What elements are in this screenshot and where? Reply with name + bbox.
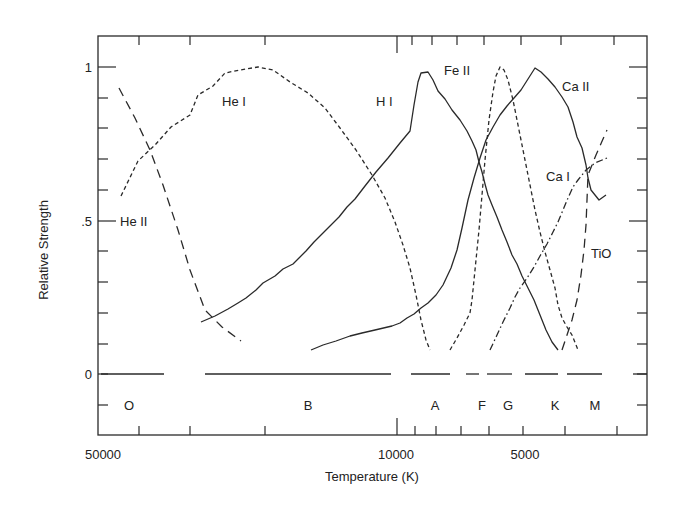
label-he-ii: He II bbox=[120, 214, 147, 229]
x-tick-50000: 50000 bbox=[85, 447, 121, 462]
plot-frame bbox=[98, 36, 647, 435]
class-g: G bbox=[503, 398, 513, 413]
x-axis-title: Temperature (K) bbox=[325, 469, 419, 484]
x-tick-5000: 5000 bbox=[511, 447, 540, 462]
spectral-line-strength-chart: He II He I H I Fe II Ca II Ca I TiO O B … bbox=[0, 0, 680, 506]
y-axis-ticks-right bbox=[629, 67, 647, 405]
class-f: F bbox=[478, 398, 486, 413]
y-tick-0: 0 bbox=[85, 367, 92, 382]
label-h-i: H I bbox=[376, 94, 393, 109]
x-tick-labels: 50000 10000 5000 bbox=[85, 447, 540, 462]
x-tick-10000: 10000 bbox=[378, 447, 414, 462]
class-o: O bbox=[124, 398, 134, 413]
x-axis-ticks-bottom bbox=[139, 418, 617, 435]
label-he-i: He I bbox=[222, 94, 246, 109]
series-h-i-line bbox=[201, 72, 558, 350]
x-axis-ticks-top bbox=[139, 36, 614, 53]
y-tick-05: .5 bbox=[81, 214, 92, 229]
label-ca-ii: Ca II bbox=[562, 79, 589, 94]
class-k: K bbox=[551, 398, 560, 413]
y-axis-ticks-left bbox=[98, 67, 116, 405]
class-b: B bbox=[304, 398, 313, 413]
series-ca-ii-line bbox=[311, 68, 606, 350]
y-axis-title: Relative Strength bbox=[36, 200, 51, 300]
class-m: M bbox=[590, 398, 601, 413]
label-fe-ii: Fe II bbox=[444, 63, 470, 78]
label-tio: TiO bbox=[591, 246, 611, 261]
spectral-class-labels: O B A F G K M bbox=[124, 398, 600, 413]
series-fe-ii-line bbox=[450, 67, 578, 350]
class-a: A bbox=[431, 398, 440, 413]
y-tick-1: 1 bbox=[85, 60, 92, 75]
series-labels: He II He I H I Fe II Ca II Ca I TiO bbox=[120, 63, 611, 261]
label-ca-i: Ca I bbox=[546, 169, 570, 184]
y-tick-labels: 1 .5 0 bbox=[81, 60, 92, 382]
series-he-i-line bbox=[121, 67, 430, 350]
series-ca-i-line bbox=[490, 158, 607, 350]
series-tio-line bbox=[562, 130, 607, 350]
